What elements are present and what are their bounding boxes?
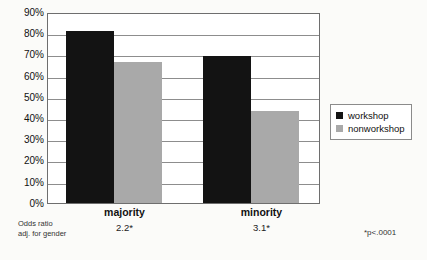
bar-majority-workshop[interactable] xyxy=(66,31,114,203)
significance-note: *p<.0001 xyxy=(364,228,396,237)
y-tick-label-40: 40% xyxy=(2,114,44,124)
odds-ratio-label: Odds ratio adj. for gender xyxy=(18,219,66,239)
y-tick-label-60: 60% xyxy=(2,72,44,82)
odds-ratio-value-majority: 2.2* xyxy=(65,222,184,233)
y-axis: 90% 80% 70% 60% 50% 40% 30% 20% 10% 0% xyxy=(0,13,44,204)
y-tick-label-50: 50% xyxy=(2,93,44,103)
y-tick-label-70: 70% xyxy=(2,50,44,60)
chart-legend: workshop nonworkshop xyxy=(330,104,412,140)
bar-group-minority xyxy=(203,14,322,203)
y-tick-label-0: 0% xyxy=(2,199,44,209)
y-tick-label-90: 90% xyxy=(2,8,44,18)
category-label-majority: majority xyxy=(65,206,184,218)
legend-swatch-icon-nonworkshop xyxy=(336,125,343,132)
category-label-minority: minority xyxy=(202,206,321,218)
odds-ratio-label-line2: adj. for gender xyxy=(18,229,66,239)
legend-item-nonworkshop[interactable]: nonworkshop xyxy=(336,122,405,135)
odds-ratio-value-minority: 3.1* xyxy=(202,222,321,233)
odds-ratio-label-line1: Odds ratio xyxy=(18,219,66,229)
bar-chart-figure: 90% 80% 70% 60% 50% 40% 30% 20% 10% 0% m… xyxy=(0,0,427,260)
y-tick-label-30: 30% xyxy=(2,135,44,145)
y-tick-label-80: 80% xyxy=(2,29,44,39)
legend-label-nonworkshop: nonworkshop xyxy=(348,123,405,134)
legend-item-workshop[interactable]: workshop xyxy=(336,109,405,122)
bar-majority-nonworkshop[interactable] xyxy=(114,62,162,203)
legend-label-workshop: workshop xyxy=(348,110,389,121)
bar-group-majority xyxy=(66,14,185,203)
legend-swatch-icon-workshop xyxy=(336,112,343,119)
plot-area xyxy=(47,13,320,204)
bar-minority-nonworkshop[interactable] xyxy=(251,111,299,203)
y-tick-label-20: 20% xyxy=(2,156,44,166)
y-tick-label-10: 10% xyxy=(2,178,44,188)
bar-minority-workshop[interactable] xyxy=(203,56,251,203)
